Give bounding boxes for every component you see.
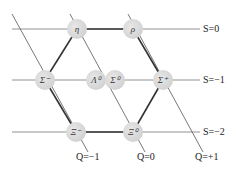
particle-sigma0: Σ⁰ xyxy=(105,70,125,90)
particle-eta: η xyxy=(67,19,87,39)
particle-lambda0: Λ⁰ xyxy=(86,70,106,90)
label-s-minus2: S=−2 xyxy=(203,127,225,137)
label-q0: Q=0 xyxy=(137,152,155,162)
label-q-plus1: Q=+1 xyxy=(195,152,219,162)
particle-rho: ρ xyxy=(123,19,143,39)
label-s0: S=0 xyxy=(203,24,219,34)
label-q-minus1: Q=−1 xyxy=(76,152,100,162)
particle-xi0: Ξ⁰ xyxy=(123,122,143,142)
label-s-minus1: S=−1 xyxy=(203,75,225,85)
particle-sigma-minus: Σ⁻ xyxy=(35,70,55,90)
baryon-octet-diagram: η ρ Σ⁻ Λ⁰ Σ⁰ Σ⁺ Ξ⁻ Ξ⁰ S=0 S=−1 S=−2 Q=−1… xyxy=(0,0,237,172)
particle-xi-minus: Ξ⁻ xyxy=(66,122,86,142)
particle-sigma-plus: Σ⁺ xyxy=(153,70,173,90)
